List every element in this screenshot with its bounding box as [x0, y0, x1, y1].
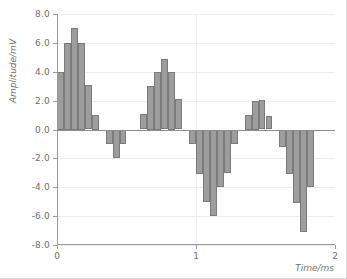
y-tick-label: -6.0 — [32, 211, 50, 221]
y-tick-label: 6.0 — [35, 38, 50, 48]
y-tick-label: -8.0 — [32, 240, 50, 250]
bar — [210, 130, 217, 217]
y-tick-mark — [53, 72, 57, 73]
x-tick-mark — [335, 245, 336, 249]
x-tick-label: 1 — [193, 251, 199, 261]
bar — [259, 100, 266, 130]
y-tick-label: 2.0 — [35, 96, 50, 106]
bar — [286, 130, 293, 175]
bar — [279, 130, 286, 147]
chart-figure: Amplitude/mV 8.06.04.02.00.0-2.0-4.0-6.0… — [0, 0, 347, 279]
bar — [57, 72, 64, 130]
y-tick-label: -4.0 — [32, 182, 50, 192]
y-tick-mark — [53, 216, 57, 217]
bar — [224, 130, 231, 173]
bar — [120, 130, 127, 144]
y-axis-title: Amplitude/mV — [6, 14, 20, 245]
bar — [64, 43, 71, 130]
bar — [203, 130, 210, 202]
bar — [245, 115, 252, 129]
x-axis-title: Time/ms — [295, 263, 334, 273]
x-tick-mark — [57, 245, 58, 249]
y-axis-title-text: Amplitude/mV — [8, 39, 18, 103]
bar — [71, 28, 78, 129]
bar — [217, 130, 224, 188]
bar — [196, 130, 203, 175]
bar — [85, 85, 92, 130]
bar — [252, 101, 259, 130]
y-tick-mark — [53, 158, 57, 159]
y-tick-mark — [53, 43, 57, 44]
bar — [293, 130, 300, 204]
bar — [300, 130, 307, 233]
x-tick-label: 0 — [54, 251, 60, 261]
y-tick-mark — [53, 130, 57, 131]
bar — [168, 72, 175, 130]
bar — [106, 130, 113, 144]
y-tick-label: -2.0 — [32, 153, 50, 163]
bar — [92, 115, 99, 129]
bar — [161, 59, 168, 130]
y-tick-mark — [53, 187, 57, 188]
zero-baseline — [57, 130, 335, 131]
bar — [231, 130, 238, 144]
bar — [307, 130, 314, 188]
bar — [154, 72, 161, 130]
y-tick-label: 8.0 — [35, 9, 50, 19]
bar — [175, 99, 182, 129]
bar — [140, 114, 147, 130]
bar — [78, 43, 85, 130]
y-tick-label: 4.0 — [35, 67, 50, 77]
y-tick-mark — [53, 101, 57, 102]
x-tick-label: 2 — [332, 251, 338, 261]
bar — [266, 116, 273, 130]
bar — [113, 130, 120, 159]
plot-area: 8.06.04.02.00.0-2.0-4.0-6.0-8.0 012 — [57, 14, 335, 245]
bar — [189, 130, 196, 144]
bar — [147, 86, 154, 129]
x-tick-mark — [196, 245, 197, 249]
y-tick-label: 0.0 — [35, 125, 50, 135]
y-tick-mark — [53, 14, 57, 15]
